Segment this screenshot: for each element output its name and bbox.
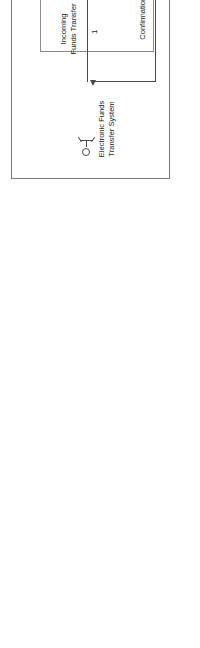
diagram-rotor: Payee's Bank Process Flow Electronic Fun… — [0, 0, 200, 200]
stick-figure-body-icon — [86, 141, 87, 147]
flow-4-line-up — [93, 81, 156, 82]
flow-1-number: 1 — [90, 30, 99, 34]
flow-4-line-horizontal — [155, 0, 156, 82]
flow-1-line — [87, 0, 88, 82]
stick-figure-head-icon — [82, 148, 90, 156]
actor-efts-label: Electronic Funds Transfer System — [97, 86, 117, 172]
flow-4-arrowhead-icon — [90, 80, 96, 86]
diagram-canvas: Payee's Bank Process Flow Electronic Fun… — [0, 0, 200, 200]
flow-4-label: Confirmation/Refund — [138, 0, 148, 70]
flow-1-label: Incoming Funds Transfer — [59, 0, 79, 72]
inner-boundary — [40, 0, 154, 52]
